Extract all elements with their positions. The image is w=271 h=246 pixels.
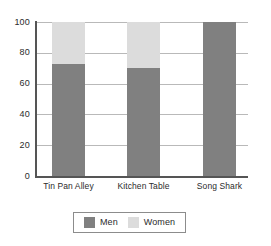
bar-segment-women [52,22,85,64]
bar-tin-pan-alley[interactable] [52,22,85,176]
legend-label-women: Women [144,218,175,227]
stacked-bar-chart: 100 80 60 40 20 0 [0,0,271,246]
bar-segment-men [203,22,236,176]
legend-item-men[interactable]: Men [84,217,118,228]
bar-segment-men [52,64,85,176]
bar-group [36,22,248,176]
x-axis-line [35,176,248,178]
legend-swatch-women-icon [128,217,139,228]
bar-segment-men [127,68,160,176]
y-axis-line [35,21,37,177]
legend-label-men: Men [100,218,118,227]
y-tick-label-40: 40 [0,110,30,119]
bar-segment-women [127,22,160,68]
x-tick-label-song-shark: Song Shark [197,181,242,191]
legend-item-women[interactable]: Women [128,217,175,228]
x-tick-label-kitchen-table: Kitchen Table [117,181,169,191]
x-tick-label-tin-pan-alley: Tin Pan Alley [43,181,94,191]
y-tick-label-80: 80 [0,48,30,57]
y-tick-label-100: 100 [0,18,30,27]
legend-swatch-men-icon [84,217,95,228]
x-axis-tick-labels: Tin Pan Alley Kitchen Table Song Shark [36,181,248,197]
plot-area [36,22,248,176]
y-tick-label-0: 0 [0,172,30,181]
y-tick-label-20: 20 [0,141,30,150]
bar-kitchen-table[interactable] [127,22,160,176]
y-tick-label-60: 60 [0,79,30,88]
chart-legend: Men Women [73,212,186,233]
bar-song-shark[interactable] [203,22,236,176]
